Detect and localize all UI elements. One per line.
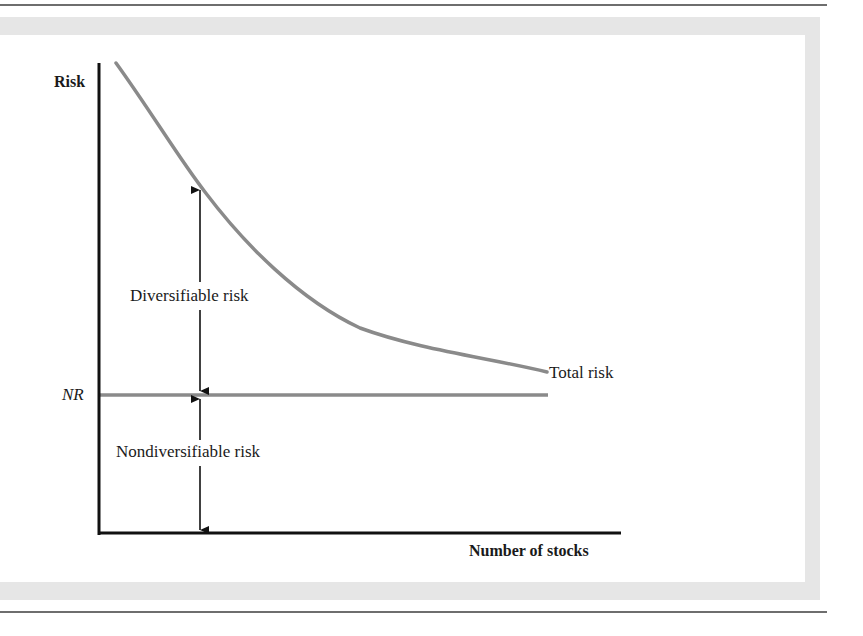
diversifiable-risk-label: Diversifiable risk: [128, 287, 251, 304]
y-axis-label: Risk: [54, 74, 85, 90]
nr-tick-label: NR: [62, 386, 84, 403]
risk-diversification-chart: [0, 0, 863, 636]
total-risk-curve: [116, 63, 547, 372]
total-risk-label: Total risk: [549, 364, 613, 381]
nondiversifiable-risk-label: Nondiversifiable risk: [114, 443, 262, 460]
x-axis-label: Number of stocks: [469, 543, 589, 559]
